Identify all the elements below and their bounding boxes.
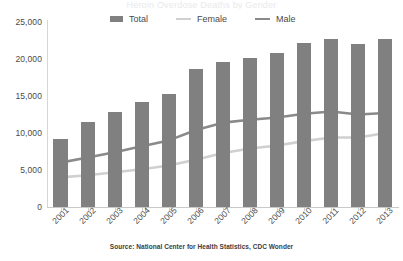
x-axis-tick-label-2008: 2008: [239, 205, 260, 226]
bar-2009[interactable]: [270, 53, 284, 207]
x-axis-tick-label-2009: 2009: [266, 205, 287, 226]
x-axis-tick-label-2003: 2003: [104, 205, 125, 226]
y-axis-tick-label: 25,000: [15, 17, 42, 27]
legend-swatch-female-icon: [176, 18, 191, 20]
bar-2008[interactable]: [243, 58, 257, 207]
chart-title-clipped: Heroin Overdose Deaths by Gender: [0, 0, 403, 9]
x-axis-tick-label-2004: 2004: [131, 205, 152, 226]
bar-2011[interactable]: [324, 39, 338, 207]
bar-2001[interactable]: [53, 139, 67, 207]
source-caption: Source: National Center for Health Stati…: [0, 243, 403, 250]
y-axis-tick-label: 5,000: [20, 165, 42, 175]
bar-2004[interactable]: [135, 102, 149, 207]
legend-swatch-male-icon: [255, 18, 270, 20]
bar-2007[interactable]: [216, 62, 230, 207]
y-axis-tick-label: 10,000: [15, 128, 42, 138]
y-axis-tick-label: 20,000: [15, 54, 42, 64]
bar-2010[interactable]: [297, 43, 311, 207]
bar-2006[interactable]: [189, 69, 203, 207]
x-axis-tick-label-2011: 2011: [321, 205, 341, 225]
x-axis-tick-label-2005: 2005: [158, 205, 179, 226]
bar-2005[interactable]: [162, 94, 176, 207]
bar-2002[interactable]: [81, 122, 95, 207]
bar-2013[interactable]: [378, 39, 392, 207]
bar-2003[interactable]: [108, 112, 122, 207]
x-axis-tick-label-2012: 2012: [348, 205, 369, 226]
chart-container: Heroin Overdose Deaths by Gender Total F…: [0, 0, 403, 261]
x-axis-tick-label-2013: 2013: [375, 205, 396, 226]
x-axis-tick-label-2007: 2007: [212, 205, 233, 226]
y-axis-tick-label: 0: [37, 202, 42, 212]
x-axis-tick-label-2010: 2010: [293, 205, 314, 226]
plot-area: [47, 22, 399, 207]
x-axis-tick-label-2006: 2006: [185, 205, 206, 226]
bar-2012[interactable]: [351, 44, 365, 207]
x-axis-tick-label-2002: 2002: [77, 205, 98, 226]
x-axis-tick-label-2001: 2001: [50, 205, 71, 226]
y-axis-tick-label: 15,000: [15, 91, 42, 101]
